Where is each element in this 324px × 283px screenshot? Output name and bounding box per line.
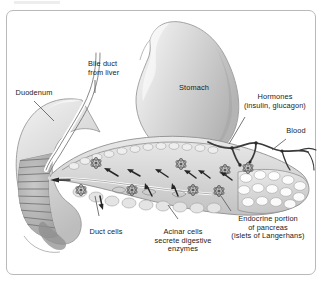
label-acinar-cells: Acinar cells secrete digestive enzymes	[140, 228, 226, 254]
label-duct-cells: Duct cells	[76, 228, 136, 237]
leader-blood	[272, 139, 286, 150]
label-hormones: Hormones (insulin, glucagon)	[228, 93, 322, 110]
label-stomach: Stomach	[166, 84, 222, 93]
label-bile-duct: Bile duct from liver	[88, 60, 146, 77]
label-blood: Blood	[276, 127, 316, 136]
label-endocrine-portion: Endocrine portion of pancreas (islets of…	[216, 215, 320, 241]
label-duodenum: Duodenum	[4, 89, 64, 98]
anatomy-figure: Duodenum Bile duct from liver Stomach Ho…	[0, 0, 324, 283]
